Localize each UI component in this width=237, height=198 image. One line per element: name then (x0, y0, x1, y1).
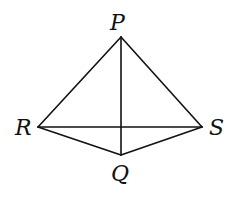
vertex-label-p: P (109, 10, 126, 35)
vertex-labels: P R S Q (14, 10, 224, 186)
edge-r-q (38, 127, 121, 155)
vertex-label-q: Q (111, 161, 129, 186)
geometry-diagram: P R S Q (0, 0, 237, 198)
edge-s-q (121, 127, 202, 155)
vertex-label-r: R (14, 115, 32, 140)
vertex-label-s: S (209, 115, 224, 140)
edges (38, 37, 202, 155)
edge-p-s (121, 37, 202, 127)
edge-p-r (38, 37, 121, 127)
